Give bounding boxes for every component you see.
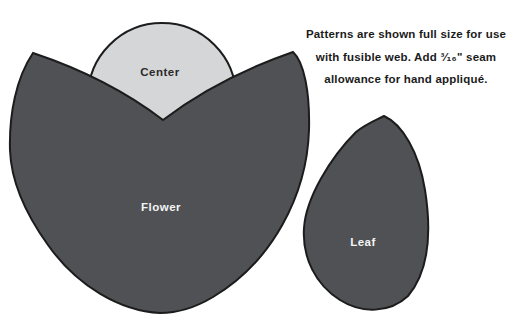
pattern-page: Center Flower Leaf Patterns are shown fu… [0,0,517,329]
flower-piece-label: Flower [141,201,181,213]
instruction-line-1: Patterns are shown full size for use [298,23,514,46]
center-piece-label: Center [140,66,179,78]
instruction-line-3: allowance for hand appliqué. [298,68,514,91]
instructions-text: Patterns are shown full size for use wit… [298,23,514,91]
leaf-piece-label: Leaf [350,236,376,248]
leaf-piece-shape [304,116,428,310]
instruction-line-2: with fusible web. Add ³⁄₁₆" seam [298,46,514,69]
